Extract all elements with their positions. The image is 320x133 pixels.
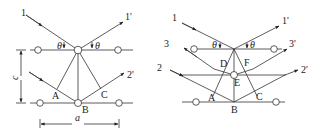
ray-3-reflected	[253, 49, 287, 69]
label-3: 3	[164, 38, 169, 49]
perp-A	[57, 50, 78, 89]
label-theta-right: θ	[250, 39, 255, 50]
perp-C	[78, 50, 101, 89]
label-1-prime: 1'	[125, 11, 132, 22]
ray-1-arrow	[26, 15, 42, 26]
label-B: B	[82, 104, 89, 115]
atom	[193, 99, 200, 106]
label-2: 2	[157, 62, 162, 73]
atom	[74, 46, 82, 54]
label-a: a	[75, 112, 80, 123]
label-C: C	[101, 89, 108, 100]
atom	[273, 99, 280, 106]
label-A: A	[52, 90, 60, 101]
label-theta-left: θ	[57, 40, 62, 51]
ray-1-reflected	[234, 26, 279, 49]
right-figure	[170, 23, 298, 102]
label-A: A	[208, 92, 216, 103]
atom	[35, 47, 42, 54]
label-E: E	[234, 77, 240, 88]
atom	[75, 100, 82, 107]
left-labels: 1 1' 2' θ θ A B C c a	[9, 7, 134, 123]
atom	[115, 47, 122, 54]
label-2-prime: 2'	[301, 64, 308, 75]
label-D: D	[220, 58, 227, 69]
label-B: B	[231, 104, 238, 115]
ray-2-arrow	[170, 70, 183, 76]
label-theta-right: θ	[95, 40, 100, 51]
ray-2-reflected	[285, 70, 298, 75]
label-3-prime: 3'	[289, 38, 296, 49]
ray-2-arrow	[29, 72, 43, 81]
label-c: c	[9, 75, 20, 80]
right-atoms	[191, 46, 280, 106]
ray-1-arrow	[182, 23, 196, 30]
label-1: 1	[21, 7, 26, 18]
left-atoms	[35, 46, 123, 106]
perp-A	[213, 49, 234, 96]
label-1-prime: 1'	[282, 15, 289, 26]
atom	[116, 100, 123, 107]
atom	[271, 46, 278, 53]
label-2-prime: 2'	[127, 69, 134, 80]
atom	[37, 100, 44, 107]
diffraction-diagram: 1 1' 2' θ θ A B C c a	[0, 0, 320, 133]
label-theta-left: θ	[212, 39, 217, 50]
atom	[191, 46, 198, 53]
ray-1-reflected	[78, 22, 123, 50]
label-F: F	[244, 57, 250, 68]
right-labels: 1 1' 3 3' 2 2' θ θ D F E A B C	[157, 12, 308, 115]
label-C: C	[256, 91, 263, 102]
label-1: 1	[172, 12, 177, 23]
